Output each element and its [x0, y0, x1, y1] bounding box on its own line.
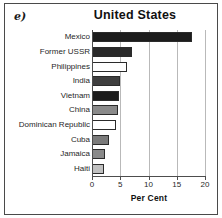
category-axis-labels: MexicoFormer USSRPhilippinesIndiaVietnam… — [2, 30, 90, 176]
bar — [92, 62, 127, 72]
bar — [92, 120, 116, 130]
category-label: Former USSR — [4, 48, 90, 56]
category-label: Dominican Republic — [4, 121, 90, 129]
x-axis-tick-label: 5 — [118, 181, 122, 189]
chart-title: United States — [60, 9, 210, 22]
panel-letter: e) — [14, 11, 26, 22]
bar — [92, 135, 109, 145]
category-label: Vietnam — [4, 92, 90, 100]
gridline — [149, 30, 150, 176]
bar — [92, 32, 192, 42]
x-axis-tick-label: 10 — [144, 181, 153, 189]
plot-area — [92, 30, 205, 176]
category-label: Cuba — [4, 136, 90, 144]
bar — [92, 149, 105, 159]
x-axis-tick-label: 20 — [201, 181, 210, 189]
gridline — [205, 30, 206, 176]
bar — [92, 91, 119, 101]
category-label: Philippines — [4, 63, 90, 71]
y-axis-line — [92, 30, 93, 177]
category-label: China — [4, 106, 90, 114]
gridline — [177, 30, 178, 176]
bar — [92, 164, 104, 174]
x-axis-tick-label: 15 — [172, 181, 181, 189]
bar — [92, 105, 118, 115]
bar — [92, 47, 132, 57]
x-axis-tick-label: 0 — [90, 181, 94, 189]
category-label: Mexico — [4, 33, 90, 41]
category-label: Jamaica — [4, 150, 90, 158]
chart-figure: e) United States MexicoFormer USSRPhilip… — [0, 0, 222, 218]
x-axis-title: Per Cent — [92, 194, 206, 203]
category-label: Haiti — [4, 165, 90, 173]
bar — [92, 76, 120, 86]
category-label: India — [4, 77, 90, 85]
